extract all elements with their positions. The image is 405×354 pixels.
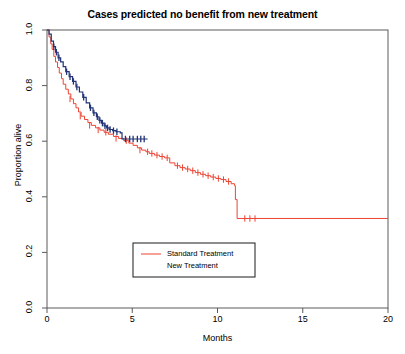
- survival-curve: [47, 30, 148, 139]
- series-group: [47, 30, 388, 222]
- legend-entry-label: New Treatment: [167, 261, 218, 270]
- plot-area: [0, 0, 405, 354]
- survival-curve: [47, 30, 388, 218]
- survival-chart-figure: Cases predicted no benefit from new trea…: [0, 0, 405, 354]
- legend-entry-label: Standard Treatment: [167, 249, 233, 258]
